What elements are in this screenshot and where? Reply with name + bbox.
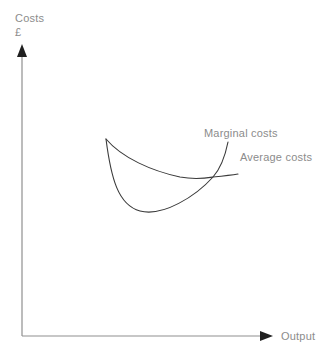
x-axis-label: Output <box>281 330 315 342</box>
y-axis-arrowhead <box>17 44 27 57</box>
cost-curves-chart: Costs £ Output Marginal costs Average co… <box>0 0 319 354</box>
y-axis-unit-label: £ <box>15 26 21 38</box>
x-axis-arrowhead <box>260 331 273 341</box>
average-costs-label: Average costs <box>240 151 312 163</box>
y-axis-label: Costs <box>15 12 44 24</box>
marginal-costs-curve <box>106 139 228 212</box>
marginal-costs-label: Marginal costs <box>204 127 278 139</box>
chart-canvas: Costs £ Output Marginal costs Average co… <box>0 0 319 354</box>
average-costs-curve <box>106 139 238 179</box>
